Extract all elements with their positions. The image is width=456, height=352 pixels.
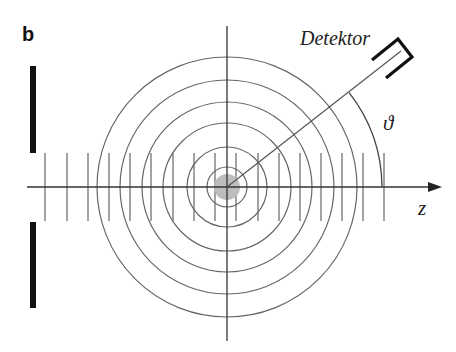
angle-label: ϑ [383,111,393,136]
scattering-diagram [0,0,456,352]
detector-direction-line [227,51,401,187]
slit-lower-bar [30,222,36,308]
z-axis-arrow-icon [428,182,442,192]
detector-label: Detektor [300,27,370,50]
slit-upper-bar [30,66,36,153]
panel-label: b [22,23,34,46]
z-axis-label: z [418,196,426,221]
theta-angle-arc [349,93,382,187]
